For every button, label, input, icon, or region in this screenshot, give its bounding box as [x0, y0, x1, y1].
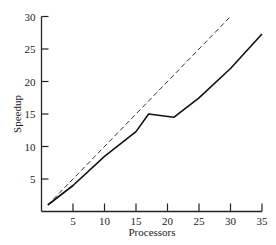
y-axis-title: Speedup — [11, 95, 23, 133]
x-tick-label: 35 — [257, 215, 269, 227]
y-tick-label: 25 — [25, 43, 37, 55]
x-tick-label: 15 — [131, 215, 143, 227]
y-tick-label: 20 — [25, 76, 37, 88]
y-tick-label: 10 — [25, 141, 37, 153]
series-group — [48, 17, 262, 206]
ideal-speedup-line — [48, 17, 231, 206]
x-tick-label: 10 — [99, 215, 111, 227]
x-tick-label: 30 — [225, 215, 237, 227]
speedup-chart: 510152025305101520253035 Processors Spee… — [0, 0, 276, 245]
x-tick-label: 20 — [162, 215, 174, 227]
x-tick-label: 25 — [194, 215, 206, 227]
measured-speedup-line — [48, 34, 262, 205]
x-tick-label: 5 — [70, 215, 76, 227]
x-axis-title: Processors — [128, 226, 175, 238]
y-tick-label: 15 — [25, 108, 37, 120]
y-tick-label: 5 — [30, 173, 36, 185]
y-tick-label: 30 — [25, 11, 37, 23]
